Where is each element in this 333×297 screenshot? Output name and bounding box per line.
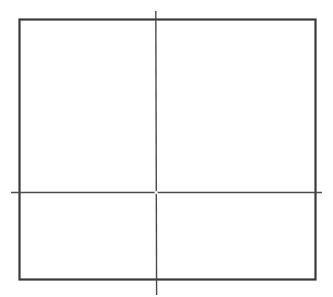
vertical-axis-line — [156, 11, 157, 295]
background — [0, 0, 333, 297]
diagram-canvas — [0, 0, 333, 297]
intersection-point — [155, 191, 158, 194]
